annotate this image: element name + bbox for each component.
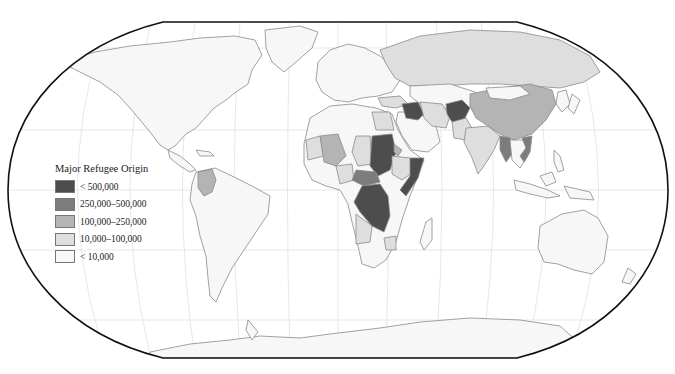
russia <box>380 30 600 88</box>
zimbabwe <box>384 236 396 250</box>
legend-label: 10,000–100,000 <box>80 234 142 244</box>
legend-label: 250,000–500,000 <box>80 199 147 209</box>
legend-swatch <box>55 250 75 263</box>
legend-swatch <box>55 180 75 193</box>
legend-item: 100,000–250,000 <box>55 213 148 231</box>
legend-label: < 500,000 <box>80 182 119 192</box>
legend-item: < 500,000 <box>55 178 148 196</box>
legend-label: 100,000–250,000 <box>80 217 147 227</box>
legend-item: 10,000–100,000 <box>55 231 148 249</box>
legend-swatch <box>55 198 75 211</box>
map-legend: Major Refugee Origin < 500,000 250,000–5… <box>55 163 148 266</box>
egypt <box>372 112 394 130</box>
legend-title: Major Refugee Origin <box>55 163 148 174</box>
legend-swatch <box>55 233 75 246</box>
legend-item: < 10,000 <box>55 248 148 266</box>
legend-label: < 10,000 <box>80 252 114 262</box>
legend-swatch <box>55 215 75 228</box>
legend-item: 250,000–500,000 <box>55 196 148 214</box>
